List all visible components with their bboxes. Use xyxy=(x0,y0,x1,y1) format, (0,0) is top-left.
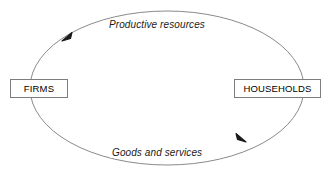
arrowhead-bottom-right-icon xyxy=(236,134,246,143)
node-households-label: HOUSEHOLDS xyxy=(243,84,311,94)
arrowhead-top-left-icon xyxy=(62,33,72,42)
node-firms: FIRMS xyxy=(10,79,68,98)
flow-label-productive-resources: Productive resources xyxy=(107,20,207,30)
node-firms-label: FIRMS xyxy=(24,84,54,94)
flow-label-goods-and-services: Goods and services xyxy=(110,148,204,158)
node-households: HOUSEHOLDS xyxy=(234,79,321,98)
circular-flow-diagram: Productive resources Goods and services … xyxy=(0,0,331,175)
